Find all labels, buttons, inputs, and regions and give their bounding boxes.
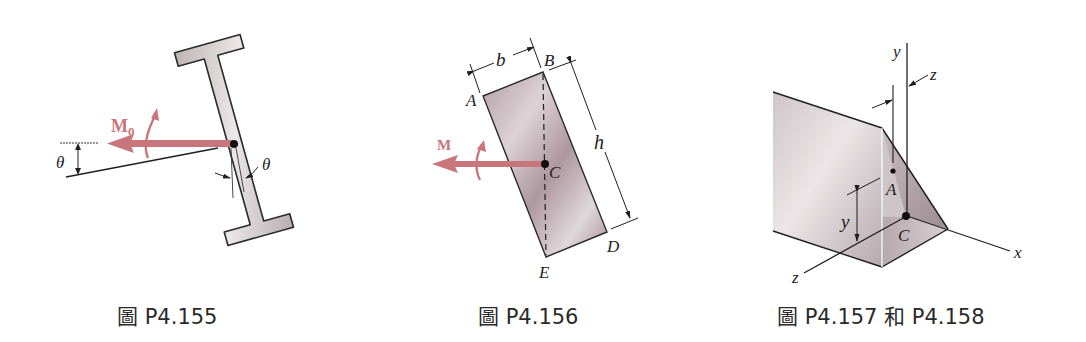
point-label-d: D (606, 237, 620, 256)
caption-p4-157-158: 圖 P4.157 和 P4.158 (777, 300, 985, 330)
z-offset-arrow-left (872, 100, 892, 108)
point-label-a: A (885, 180, 897, 199)
point-label-a: A (465, 91, 477, 110)
moment-label: M (437, 137, 451, 153)
extension-line (611, 218, 638, 229)
caption-p4-155: 圖 P4.155 (117, 300, 217, 330)
dimension-h-top (571, 63, 596, 130)
centroid-dot-c (541, 160, 549, 168)
dimension-b-right (513, 47, 534, 55)
theta-label-left: θ (56, 153, 64, 172)
extension-line (530, 38, 541, 68)
height-label-h: h (594, 131, 604, 153)
arrow-head-icon (75, 143, 81, 150)
dimension-h-bottom (605, 152, 630, 218)
dimension-b-left (474, 63, 494, 71)
y-axis-label: y (891, 42, 901, 61)
point-a-dot (890, 168, 895, 173)
rotation-arrow-icon (146, 114, 156, 158)
figure-p4-157-158: y x z A C z y (773, 42, 1022, 287)
point-label-c: C (549, 163, 561, 182)
z-offset-label: z (929, 65, 937, 84)
z-axis-label: z (791, 268, 799, 287)
x-axis-label: x (1013, 243, 1022, 262)
y-dimension-label: y (839, 211, 850, 232)
figure-p4-155: θ M0 θ (56, 35, 293, 246)
extension-line (470, 64, 480, 93)
z-offset-arrow-right (909, 75, 928, 86)
centroid-dot (230, 140, 238, 148)
point-label-e: E (538, 263, 550, 282)
theta-label-right: θ (262, 155, 270, 174)
angle-vertical-leg (773, 92, 882, 267)
theta-arrow-left (215, 173, 230, 178)
centroid-dot-c (902, 212, 910, 220)
caption-p4-156: 圖 P4.156 (478, 300, 578, 330)
figure-p4-156: b h A B C D E M (432, 38, 638, 282)
inclined-axis-line (66, 148, 218, 177)
width-label-b: b (496, 49, 506, 70)
point-label-c: C (898, 226, 910, 245)
figures-canvas: θ M0 θ b h (0, 0, 1086, 342)
point-label-b: B (544, 51, 555, 70)
moment-label: M0 (111, 116, 135, 139)
moment-vector-m0: M0 (107, 108, 234, 158)
